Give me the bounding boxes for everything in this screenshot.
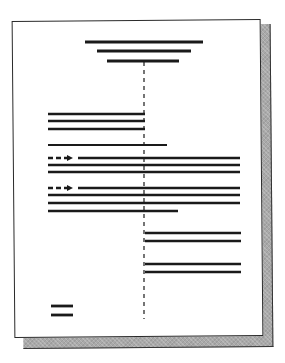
left-aligned-block: [48, 114, 145, 129]
title-lines: [85, 42, 203, 61]
signature-lines: [51, 306, 73, 315]
document-layout-diagram: [0, 0, 285, 363]
right-aligned-block: [145, 233, 241, 272]
